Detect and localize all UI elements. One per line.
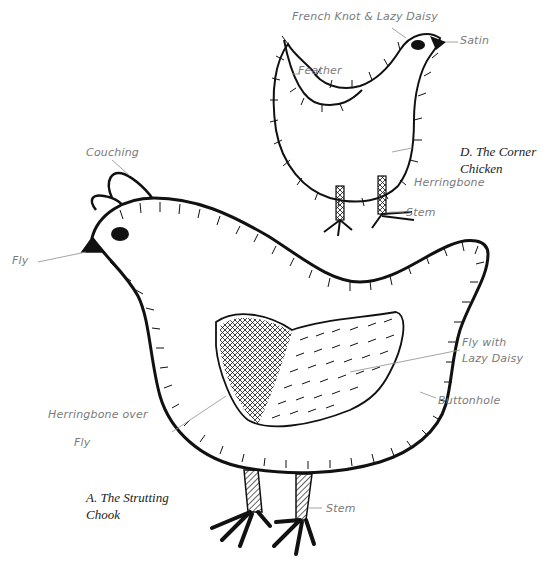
- label-buttonhole: Buttonhole: [438, 394, 500, 407]
- label-herringbone-legs: Herringbone: [414, 176, 485, 189]
- caption-corner-chicken: D. The Corner Chicken: [460, 143, 536, 177]
- label-herringbone-over: Herringbone over: [48, 408, 148, 421]
- caption-strutting-chook: A. The Strutting Chook: [86, 489, 169, 523]
- label-fly-wing: Fly: [74, 436, 91, 449]
- label-fly-with: Fly with: [462, 336, 506, 349]
- label-french-knot-lazy-daisy: French Knot & Lazy Daisy: [292, 10, 438, 23]
- corner-chicken-eye-icon: [411, 40, 425, 50]
- chook-eye-icon: [111, 227, 129, 241]
- label-couching: Couching: [86, 146, 139, 159]
- caption-line-2: Chicken: [460, 160, 536, 177]
- caption-line-2: Chook: [86, 506, 169, 523]
- label-fly-beak: Fly: [12, 254, 29, 267]
- label-stem-feet: Stem: [406, 206, 436, 219]
- caption-line-1: D. The Corner: [460, 143, 536, 160]
- label-stem-legs: Stem: [326, 502, 356, 515]
- caption-line-1: A. The Strutting: [86, 489, 169, 506]
- stitch-diagram: [0, 0, 558, 564]
- label-lazy-daisy: Lazy Daisy: [462, 352, 523, 365]
- label-feather: Feather: [298, 64, 342, 77]
- label-satin: Satin: [460, 34, 489, 47]
